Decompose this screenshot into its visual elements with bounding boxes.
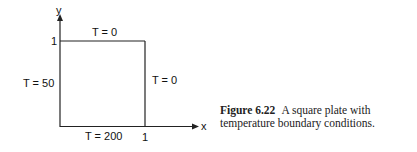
x-arrow-icon xyxy=(192,124,199,130)
x-tick-label: 1 xyxy=(142,131,148,143)
left-boundary-label: T = 50 xyxy=(23,77,54,89)
figure-caption: Figure 6.22A square plate with temperatu… xyxy=(220,104,410,130)
y-tick-label: 1 xyxy=(51,35,57,47)
y-axis-label: y xyxy=(56,4,62,16)
figure-number: Figure 6.22 xyxy=(220,104,275,116)
right-boundary-label: T = 0 xyxy=(152,74,177,86)
bottom-boundary-label: T = 200 xyxy=(85,130,122,142)
top-boundary-label: T = 0 xyxy=(92,26,117,38)
x-axis-label: x xyxy=(201,120,207,132)
